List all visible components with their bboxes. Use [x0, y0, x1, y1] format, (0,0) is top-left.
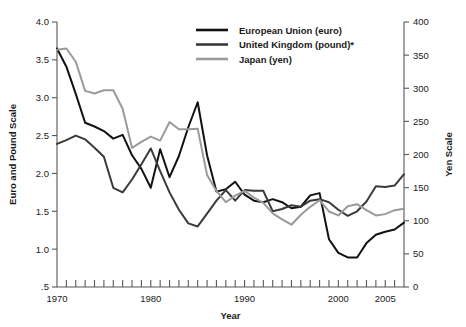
y2-tick-label: 300	[413, 83, 429, 94]
series-line-1	[57, 136, 404, 227]
plot-frame	[57, 22, 404, 287]
x-tick-label: 1970	[46, 293, 67, 304]
y2-tick-label: 100	[413, 215, 429, 226]
x-tick-label: 2005	[375, 293, 396, 304]
y-tick-label: .5	[41, 281, 49, 292]
chart-container: .51.01.52.02.53.03.54.005010015020025030…	[0, 0, 466, 327]
y-tick-label: 4.0	[36, 16, 49, 27]
legend-label-1: United Kingdom (pound)*	[239, 39, 354, 50]
series-layer	[57, 49, 404, 258]
series-line-0	[57, 49, 404, 258]
y2-tick-label: 350	[413, 50, 429, 61]
left-axis-title: Euro and Pound Scale	[7, 104, 18, 205]
axes-layer: .51.01.52.02.53.03.54.005010015020025030…	[36, 16, 429, 304]
y2-tick-label: 200	[413, 149, 429, 160]
y-tick-label: 2.5	[36, 130, 49, 141]
y2-tick-label: 250	[413, 116, 429, 127]
series-line-2	[57, 49, 404, 225]
legend-layer: European Union (euro)United Kingdom (pou…	[196, 25, 354, 65]
legend-label-0: European Union (euro)	[239, 25, 342, 36]
x-tick-label: 2000	[328, 293, 349, 304]
x-tick-label: 1980	[140, 293, 161, 304]
right-axis-title: Yen Scale	[443, 132, 454, 176]
y-tick-label: 3.5	[36, 54, 49, 65]
legend-label-2: Japan (yen)	[239, 54, 292, 65]
y2-tick-label: 50	[413, 248, 424, 259]
x-axis-title: Year	[220, 310, 240, 321]
y2-tick-label: 400	[413, 16, 429, 27]
exchange-rate-line-chart: .51.01.52.02.53.03.54.005010015020025030…	[0, 0, 466, 327]
x-tick-label: 1990	[234, 293, 255, 304]
y-tick-label: 1.0	[36, 244, 49, 255]
y2-tick-label: 150	[413, 182, 429, 193]
y2-tick-label: 0	[413, 281, 418, 292]
y-tick-label: 1.5	[36, 206, 49, 217]
y-tick-label: 3.0	[36, 92, 49, 103]
y-tick-label: 2.0	[36, 168, 49, 179]
